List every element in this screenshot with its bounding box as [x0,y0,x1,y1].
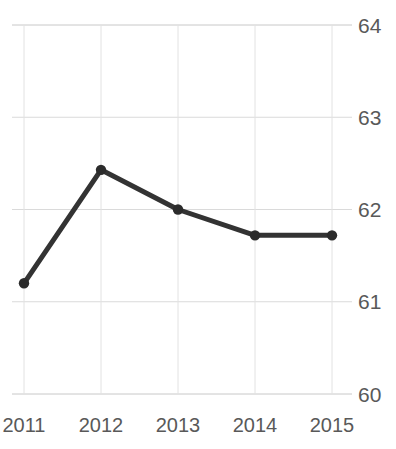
data-point-2011 [19,278,29,288]
y-tick-label-64: 64 [358,15,396,36]
line-chart: Freedom Trend 64 63 62 [0,0,396,449]
x-tick-label-2013: 2013 [138,415,218,435]
y-tick-label-60: 60 [358,384,396,405]
y-tick-label-63: 63 [358,107,396,128]
plot-svg [12,25,352,394]
y-tick-label-62: 62 [358,199,396,220]
y-tick-label-61: 61 [358,291,396,312]
data-point-2012 [96,165,106,175]
x-tick-label-2014: 2014 [215,415,295,435]
x-tick-label-2015: 2015 [292,415,372,435]
data-point-2013 [173,204,183,214]
data-point-2015 [327,230,337,240]
data-point-2014 [250,230,260,240]
x-tick-label-2012: 2012 [61,415,141,435]
chart-title: Freedom Trend [0,0,352,6]
x-tick-label-2011: 2011 [0,415,64,435]
plot-area [12,25,352,394]
